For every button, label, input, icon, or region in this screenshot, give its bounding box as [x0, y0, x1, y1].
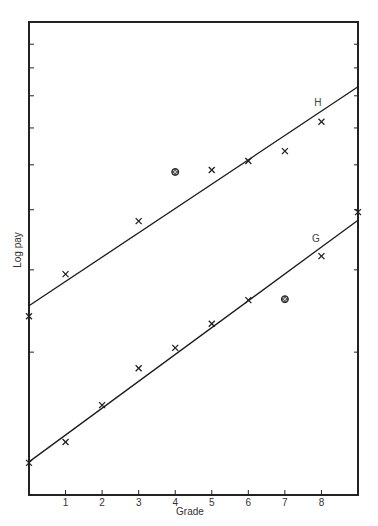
cross-marker-icon — [172, 345, 178, 351]
series-labels: HG — [312, 97, 321, 244]
series-label-h: H — [314, 97, 321, 108]
cross-marker-icon — [136, 365, 142, 371]
plot-frame — [29, 22, 358, 495]
cross-marker-icon — [136, 218, 142, 224]
data-points — [26, 119, 361, 466]
cross-marker-icon — [318, 253, 324, 259]
cross-marker-icon — [245, 297, 251, 303]
y-axis-title: Log pay — [12, 232, 23, 268]
x-tick-label: 5 — [209, 497, 215, 508]
circled-cross-marker-icon — [172, 168, 179, 175]
cross-marker-icon — [318, 119, 324, 125]
fit-line-h — [29, 87, 358, 306]
fit-line-g — [29, 220, 358, 462]
x-tick-label: 7 — [282, 497, 288, 508]
regression-lines — [29, 87, 358, 462]
x-tick-label: 2 — [99, 497, 105, 508]
cross-marker-icon — [209, 167, 215, 173]
x-tick-label: 8 — [319, 497, 325, 508]
cross-marker-icon — [99, 402, 105, 408]
x-axis-title: Grade — [176, 506, 204, 517]
cross-marker-icon — [63, 439, 69, 445]
cross-marker-icon — [63, 271, 69, 277]
log-pay-by-grade-chart: 12345678 HG Grade Log pay — [0, 0, 378, 526]
circled-cross-marker-icon — [281, 296, 288, 303]
cross-marker-icon — [209, 321, 215, 327]
y-axis-ticks — [29, 44, 358, 352]
x-tick-label: 3 — [136, 497, 142, 508]
cross-marker-icon — [282, 148, 288, 154]
series-label-g: G — [312, 233, 320, 244]
x-tick-label: 1 — [63, 497, 69, 508]
x-tick-label: 6 — [246, 497, 252, 508]
